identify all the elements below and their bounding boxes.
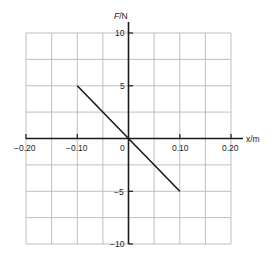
y-tick-label: −5: [114, 187, 124, 197]
origin-label: 0: [120, 143, 125, 153]
x-tick-label: −0.10: [66, 143, 88, 153]
y-tick-label: 10: [115, 28, 125, 38]
x-axis-label: x/m: [246, 134, 260, 144]
line-chart: F/N x/m −0.20 −0.10 0 0.10 0.20 10 5 −5 …: [0, 0, 273, 260]
x-tick-label: 0.10: [172, 143, 189, 153]
x-tick-label: −0.20: [14, 143, 36, 153]
y-axis-label: F/N: [114, 11, 128, 21]
y-tick-label: −10: [110, 239, 125, 249]
y-tick-label: 5: [120, 81, 125, 91]
x-tick-label: 0.20: [222, 143, 239, 153]
